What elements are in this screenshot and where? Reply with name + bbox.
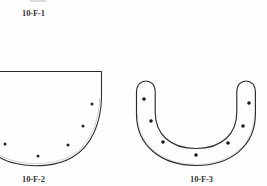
u-vessel-dot [149, 119, 153, 123]
bowl-dot [91, 103, 94, 106]
u-vessel-outer-outline [137, 81, 256, 166]
figure-label-10-f-2: 10-F-2 [22, 175, 45, 184]
bowl-dot [82, 125, 85, 128]
bowl-inner-wall-line [0, 98, 100, 164]
figure-10-f-2-drawing [0, 72, 102, 166]
bowl-outline [0, 72, 102, 166]
u-vessel-dot [247, 101, 251, 105]
figure-label-10-f-3: 10-F-3 [190, 175, 213, 184]
vessel-profile-drawings [0, 0, 267, 186]
bowl-dot [4, 143, 7, 146]
u-vessel-dot [241, 124, 245, 128]
u-vessel-dot [194, 153, 198, 157]
scan-artifact [30, 0, 46, 2]
bowl-dot [37, 155, 40, 158]
bowl-dot [67, 144, 70, 147]
figure-10-f-3-drawing [137, 81, 256, 166]
illustration-plate: 10-F-1 10-F-2 10-F-3 [0, 0, 267, 186]
u-vessel-dot [142, 97, 146, 101]
figure-label-10-f-1: 10-F-1 [22, 9, 45, 18]
u-vessel-dot [226, 141, 230, 145]
u-vessel-dot [161, 140, 165, 144]
